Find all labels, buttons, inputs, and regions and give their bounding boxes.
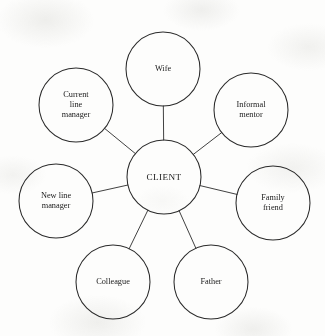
connector-client-to-family-friend	[200, 186, 237, 195]
node-circle-father[interactable]	[174, 245, 248, 319]
connector-client-to-informal-mentor	[193, 133, 221, 155]
connector-client-to-new-line-manager	[92, 185, 128, 193]
node-circle-client[interactable]	[127, 140, 201, 214]
diagram-canvas: WifeInformal mentorFamily friendFatherCo…	[0, 0, 325, 336]
node-circle-current-line-manager[interactable]	[39, 68, 113, 142]
node-circle-wife[interactable]	[126, 32, 200, 106]
network-diagram	[0, 0, 325, 336]
node-circle-informal-mentor[interactable]	[214, 73, 288, 147]
node-circle-new-line-manager[interactable]	[19, 164, 93, 238]
connector-client-to-colleague	[129, 210, 148, 248]
connector-layer	[92, 106, 237, 249]
node-circle-layer	[19, 32, 310, 319]
connector-client-to-current-line-manager	[105, 128, 136, 153]
node-circle-colleague[interactable]	[76, 245, 150, 319]
connector-client-to-father	[179, 211, 196, 248]
node-circle-family-friend[interactable]	[236, 166, 310, 240]
